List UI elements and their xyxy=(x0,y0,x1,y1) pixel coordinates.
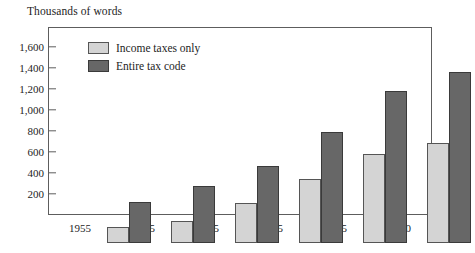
legend-item-entire-tax-code: Entire tax code xyxy=(88,58,200,74)
light-gray-swatch xyxy=(88,42,109,54)
bar-1955-income-taxes-only xyxy=(107,227,129,243)
y-axis-tick-group xyxy=(48,27,58,215)
y-axis-tick-label: 200 xyxy=(0,188,44,199)
x-axis-tick-label: 1955 xyxy=(69,222,91,235)
bar-1995-income-taxes-only xyxy=(363,154,385,243)
bar-1975-income-taxes-only xyxy=(235,203,257,243)
y-axis-tick-mark xyxy=(48,67,56,68)
bar-2000-income-taxes-only xyxy=(427,143,449,243)
y-axis-tick-mark xyxy=(48,151,56,152)
y-axis-tick-label: 800 xyxy=(0,125,44,136)
bars-layer xyxy=(97,55,475,243)
y-axis-tick-label: 400 xyxy=(0,167,44,178)
y-axis-tick-mark xyxy=(48,46,56,47)
y-axis-tick-mark xyxy=(48,130,56,131)
y-axis-tick-label: 1,000 xyxy=(0,104,44,115)
bar-1965-entire-tax-code xyxy=(193,186,215,243)
y-axis-label-group: 2004006008001,0001,2001,4001,600 xyxy=(0,27,44,215)
chart-legend: Income taxes onlyEntire tax code xyxy=(88,40,200,76)
bar-1955-entire-tax-code xyxy=(129,202,151,243)
y-axis-tick-label: 1,200 xyxy=(0,83,44,94)
dark-gray-swatch xyxy=(88,60,109,72)
y-axis-tick-label: 1,600 xyxy=(0,41,44,52)
chart-title: Thousands of words xyxy=(27,5,122,17)
y-axis-tick-mark xyxy=(48,172,56,173)
bar-1995-entire-tax-code xyxy=(385,91,407,243)
y-axis-tick-mark xyxy=(48,109,56,110)
bar-1975-entire-tax-code xyxy=(257,166,279,243)
legend-item-income-taxes-only: Income taxes only xyxy=(88,40,200,56)
y-axis-tick-label: 600 xyxy=(0,146,44,157)
bar-1985-income-taxes-only xyxy=(299,179,321,243)
y-axis-tick-mark xyxy=(48,193,56,194)
bar-2000-entire-tax-code xyxy=(449,72,471,243)
legend-item-label: Entire tax code xyxy=(116,60,186,73)
legend-item-label: Income taxes only xyxy=(116,42,200,55)
bar-1965-income-taxes-only xyxy=(171,221,193,243)
bar-1985-entire-tax-code xyxy=(321,132,343,243)
y-axis-tick-mark xyxy=(48,88,56,89)
y-axis-tick-label: 1,400 xyxy=(0,62,44,73)
